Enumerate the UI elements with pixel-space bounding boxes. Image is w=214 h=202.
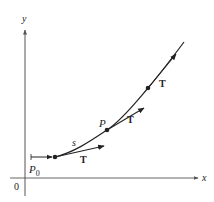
p-label: P bbox=[98, 117, 106, 129]
arc-length-label: s bbox=[72, 137, 76, 148]
origin-label: 0 bbox=[14, 181, 19, 192]
tangent-label-p: T bbox=[127, 114, 134, 125]
unit-tangent-diagram: x y 0 P0 P s T T T bbox=[0, 0, 214, 202]
tangent-label-upper: T bbox=[159, 78, 166, 89]
y-axis-label: y bbox=[21, 13, 27, 24]
tangent-vector-p bbox=[107, 108, 144, 130]
p0-label: P0 bbox=[28, 163, 40, 178]
x-axis-label: x bbox=[201, 172, 207, 183]
tangent-label-start: T bbox=[80, 154, 87, 165]
